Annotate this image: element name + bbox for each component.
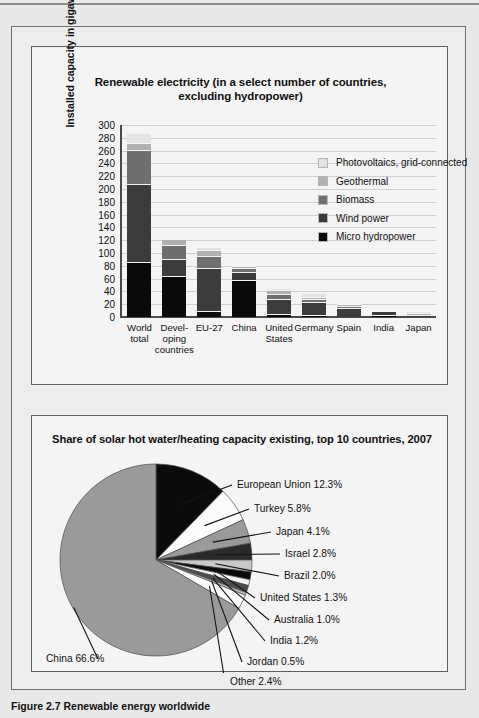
bar-stack <box>127 133 151 317</box>
bar-column[interactable]: Worldtotal <box>122 125 157 317</box>
y-tick-100: 100 <box>98 248 115 259</box>
bar-chart-title: Renewable electricity (in a select numbe… <box>46 75 435 103</box>
pie-slice-label: European Union 12.3% <box>237 479 342 490</box>
pie-slice-label: Japan 4.1% <box>276 526 330 537</box>
pie-chart-area: European Union 12.3%Turkey 5.8%Japan 4.1… <box>32 416 447 671</box>
bar-segment <box>162 259 186 276</box>
pie-slice-label: India 1.2% <box>270 635 318 646</box>
bar-column[interactable]: EU-27 <box>192 125 227 317</box>
bar-chart-panel: Renewable electricity (in a select numbe… <box>31 46 448 385</box>
bar-segment <box>302 302 326 315</box>
bar-plot-area: Installed capacity in gigawatts 02040608… <box>120 125 436 317</box>
legend-label: Biomass <box>336 194 374 205</box>
bar-segment <box>267 299 291 314</box>
bar-segment <box>197 268 221 311</box>
bar-segment <box>162 245 186 259</box>
bar-stack <box>372 311 396 317</box>
bar-chart-title-line2: excluding hydropower) <box>178 90 302 102</box>
bar-segment <box>127 262 151 317</box>
pie-slice-label: Israel 2.8% <box>285 548 336 559</box>
bar-segment <box>302 315 326 317</box>
y-tick-60: 60 <box>104 273 115 284</box>
y-tick-220: 220 <box>98 171 115 182</box>
bar-segment <box>127 150 151 184</box>
bar-segment <box>197 311 221 317</box>
bar-segment <box>127 133 151 142</box>
y-tick-240: 240 <box>98 158 115 169</box>
bar-column[interactable]: Devel-opingcountries <box>157 125 192 317</box>
legend-swatch <box>318 213 328 223</box>
bar-segment <box>267 314 291 317</box>
legend-label: Micro hydropower <box>336 231 415 242</box>
figure-frame: Renewable electricity (in a select numbe… <box>11 26 466 690</box>
bar-segment <box>127 143 151 150</box>
pie-slice-label: Other 2.4% <box>230 676 282 687</box>
bar-chart-legend: Photovoltaics, grid-connectedGeothermalB… <box>318 157 467 250</box>
y-tick-300: 300 <box>98 120 115 131</box>
x-axis-label: Japan <box>395 322 442 333</box>
bar-stack <box>197 247 221 317</box>
legend-item[interactable]: Photovoltaics, grid-connected <box>318 157 467 168</box>
y-tick-40: 40 <box>104 286 115 297</box>
y-axis-title: Installed capacity in gigawatts <box>64 0 76 137</box>
legend-swatch <box>318 232 328 242</box>
y-tick-200: 200 <box>98 184 115 195</box>
legend-label: Wind power <box>336 213 389 224</box>
legend-item[interactable]: Geothermal <box>318 176 467 187</box>
pie-slice-label: Turkey 5.8% <box>254 503 311 514</box>
legend-item[interactable]: Micro hydropower <box>318 231 467 242</box>
bar-segment <box>232 272 256 279</box>
bar-stack <box>162 239 186 317</box>
bar-segment <box>407 315 431 317</box>
pie-slice-label: Australia 1.0% <box>274 614 340 625</box>
bar-stack <box>302 293 326 317</box>
legend-swatch <box>318 158 328 168</box>
legend-label: Photovoltaics, grid-connected <box>336 157 467 168</box>
bar-segment <box>197 256 221 267</box>
pie-slice-label: United States 1.3% <box>260 592 347 603</box>
y-tick-160: 160 <box>98 209 115 220</box>
y-tick-80: 80 <box>104 260 115 271</box>
pie-slice-label: China 66.6% <box>46 653 104 664</box>
pie-chart-panel: Share of solar hot water/heating capacit… <box>31 415 448 672</box>
pie-slice-label: Jordan 0.5% <box>247 656 304 667</box>
y-tick-180: 180 <box>98 196 115 207</box>
y-tick-140: 140 <box>98 222 115 233</box>
pie-slice-label: Brazil 2.0% <box>284 570 336 581</box>
bar-column[interactable]: China <box>227 125 262 317</box>
legend-item[interactable]: Biomass <box>318 194 467 205</box>
y-tick-280: 280 <box>98 132 115 143</box>
bar-column[interactable]: UnitedStates <box>262 125 297 317</box>
legend-swatch <box>318 195 328 205</box>
legend-item[interactable]: Wind power <box>318 213 467 224</box>
bar-stack <box>232 266 256 317</box>
pie-chart-svg <box>56 460 256 660</box>
bar-segment <box>127 184 151 261</box>
y-tick-20: 20 <box>104 299 115 310</box>
legend-swatch <box>318 176 328 186</box>
bar-segment <box>162 276 186 317</box>
bar-segment <box>232 280 256 317</box>
bar-stack <box>407 311 431 317</box>
y-tick-260: 260 <box>98 145 115 156</box>
legend-label: Geothermal <box>336 176 388 187</box>
figure-caption: Figure 2.7 Renewable energy worldwide <box>11 700 210 718</box>
y-tick-120: 120 <box>98 235 115 246</box>
y-tick-0: 0 <box>109 312 115 323</box>
bar-chart-title-line1: Renewable electricity (in a select numbe… <box>95 76 387 88</box>
bar-segment <box>372 315 396 317</box>
bar-segment <box>337 308 361 317</box>
bar-stack <box>337 304 361 317</box>
bar-stack <box>267 288 291 317</box>
